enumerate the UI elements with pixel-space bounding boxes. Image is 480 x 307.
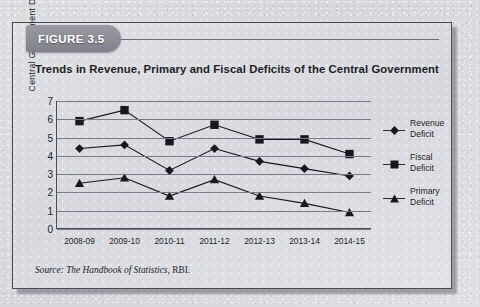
diamond-marker-icon [383, 125, 405, 135]
gridline [57, 101, 371, 102]
legend-label-line2: Deficit [410, 197, 434, 207]
x-axis-tick-2009-10: 2009-10 [109, 236, 140, 246]
gridline [57, 174, 371, 175]
data-point-diamond-2013-14 [300, 164, 309, 173]
data-point-triangle-2011-12 [210, 175, 219, 183]
x-axis-tick-2013-14: 2013-14 [289, 236, 320, 246]
y-axis-tick-0: 0 [39, 224, 53, 235]
data-point-diamond-2008-09 [75, 144, 84, 153]
y-axis-tick-6: 6 [39, 114, 53, 125]
legend-label-fiscal-deficit: Fiscal Deficit [410, 152, 434, 173]
legend-label-line1: Primary [410, 186, 440, 196]
gridline [57, 192, 371, 193]
data-point-diamond-2011-12 [210, 144, 219, 153]
legend-label-line2: Deficit [410, 129, 434, 139]
legend-label-line2: Deficit [410, 163, 434, 173]
data-point-square-2013-14 [300, 135, 308, 143]
source-note: Source: The Handbook of Statistics, RBI. [35, 265, 190, 275]
chart-title: Trends in Revenue, Primary and Fiscal De… [35, 63, 435, 75]
y-axis-tick-3: 3 [39, 169, 53, 180]
data-point-square-2011-12 [210, 121, 218, 129]
x-axis-tick-2010-11: 2010-11 [154, 236, 184, 246]
tab-divider-rule [119, 39, 439, 40]
gridline [57, 119, 371, 120]
data-point-square-2012-13 [255, 135, 263, 143]
x-axis-tick-2011-12: 2011-12 [199, 236, 229, 246]
figure-number-label: FIGURE 3.5 [26, 33, 105, 45]
y-axis-tick-5: 5 [39, 132, 53, 143]
legend-label-primary-deficit: Primary Deficit [410, 186, 440, 207]
triangle-marker-icon [383, 193, 405, 203]
x-axis-tick-2012-13: 2012-13 [244, 236, 275, 246]
legend-label-line1: Fiscal [410, 152, 432, 162]
figure-container: Trends in Revenue, Primary and Fiscal De… [12, 22, 452, 289]
data-point-square-2008-09 [75, 117, 83, 125]
gridline [57, 138, 371, 139]
data-point-square-2009-10 [120, 106, 128, 114]
source-publication: The Handbook of Statistics [66, 265, 167, 275]
x-axis-tick-2008-09: 2008-09 [64, 236, 95, 246]
square-marker-icon [383, 159, 405, 169]
gridline [57, 156, 371, 157]
y-axis-tick-1: 1 [39, 205, 53, 216]
plot-area: Central Government Deficit 012345672008-… [56, 101, 371, 229]
data-point-diamond-2014-15 [345, 172, 354, 181]
x-axis-tick-2014-15: 2014-15 [334, 236, 365, 246]
data-point-diamond-2012-13 [255, 157, 264, 166]
data-point-square-2014-15 [345, 150, 353, 158]
y-axis-tick-2: 2 [39, 187, 53, 198]
y-axis-tick-7: 7 [39, 96, 53, 107]
gridline [57, 229, 371, 230]
data-point-diamond-2009-10 [120, 140, 129, 149]
y-axis-tick-4: 4 [39, 150, 53, 161]
source-suffix: , RBI. [167, 265, 190, 275]
gridline [57, 211, 371, 212]
figure-number-tab: FIGURE 3.5 [26, 25, 121, 52]
legend-label-line1: Revenue [410, 118, 444, 128]
legend-label-revenue-deficit: Revenue Deficit [410, 118, 444, 139]
source-prefix: Source: [35, 265, 64, 275]
